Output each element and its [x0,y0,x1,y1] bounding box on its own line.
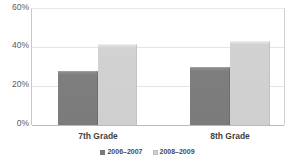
bar-7th-grade-2008-2009 [98,44,137,125]
y-tick-label-60: 60% [1,3,29,12]
bar-fill [58,71,98,125]
y-tick-label-0: 0% [1,119,29,128]
bars-layer [31,8,285,125]
bar-8th-grade-2008-2009 [230,41,270,125]
legend-swatch-icon-2008-2009 [153,150,158,155]
x-category-label-8th-grade: 8th Grade [180,131,280,141]
bar-fill [230,41,270,125]
bar-chart: 60% 40% 20% 0% 7th Grade 8th Grade 200 [0,0,295,160]
legend-swatch-icon-2006-2007 [100,150,105,155]
legend-label-2008-2009: 2008–2009 [160,148,195,156]
legend: 2006–2007 2008–2009 [0,148,295,156]
bar-7th-grade-2006-2007 [58,71,98,125]
y-axis: 60% 40% 20% 0% [0,0,29,160]
gridline-baseline-0 [32,125,284,126]
bar-8th-grade-2006-2007 [190,67,230,125]
legend-item-2008-2009[interactable]: 2008–2009 [153,148,195,156]
bar-fill [98,44,137,125]
legend-item-2006-2007[interactable]: 2006–2007 [100,148,142,156]
y-tick-label-20: 20% [1,80,29,89]
bar-fill [190,67,230,125]
y-tick-label-40: 40% [1,41,29,50]
legend-label-2006-2007: 2006–2007 [107,148,142,156]
x-category-label-7th-grade: 7th Grade [48,131,148,141]
